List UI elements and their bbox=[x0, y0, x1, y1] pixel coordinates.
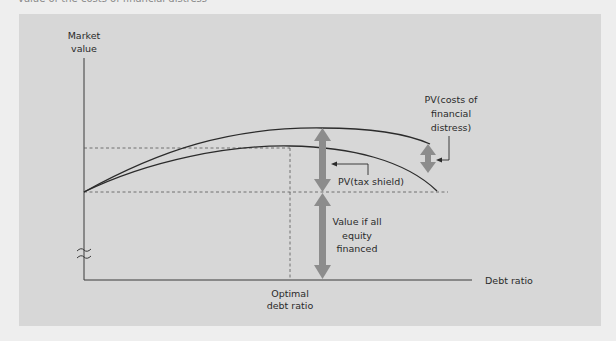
distress-label-line-2: financial bbox=[431, 108, 471, 119]
y-axis-label-line-1: Market bbox=[68, 30, 101, 41]
tax-shield-label: PV(tax shield) bbox=[338, 176, 404, 187]
distress-double-arrow bbox=[420, 144, 436, 173]
tradeoff-diagram: Market value Debt ratio Optimal debt rat… bbox=[0, 0, 616, 341]
tax-shield-callout bbox=[331, 162, 368, 176]
equity-label-line-2: equity bbox=[342, 230, 372, 241]
distress-callout bbox=[436, 136, 449, 163]
equity-label-line-3: financed bbox=[337, 243, 378, 254]
optimal-debt-label-line-1: Optimal bbox=[271, 288, 309, 299]
page: value of the costs of financial distress bbox=[0, 0, 616, 341]
tax-shield-double-arrow bbox=[314, 128, 331, 192]
equity-value-double-arrow bbox=[314, 193, 331, 279]
y-axis-label-line-2: value bbox=[71, 43, 97, 54]
x-axis-label: Debt ratio bbox=[485, 275, 533, 286]
equity-label-line-1: Value if all bbox=[332, 216, 381, 227]
optimal-debt-label-line-2: debt ratio bbox=[267, 300, 314, 311]
distress-label-line-3: distress) bbox=[431, 122, 472, 133]
distress-label-line-1: PV(costs of bbox=[425, 94, 478, 105]
